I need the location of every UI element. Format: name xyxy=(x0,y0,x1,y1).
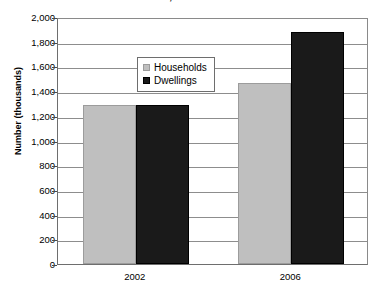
bar-chart: Ireland, 2002 and 2006 Number (thousands… xyxy=(0,0,380,285)
bar-dwellings-2002 xyxy=(136,105,189,264)
bar-households-2002 xyxy=(83,105,136,264)
y-tick-label: 600 xyxy=(0,186,55,196)
x-tick-label: 2006 xyxy=(250,271,330,282)
y-tick-label: 200 xyxy=(0,235,55,245)
y-tick-label: 800 xyxy=(0,161,55,171)
bar-households-2006 xyxy=(238,83,291,264)
x-tick-label: 2002 xyxy=(95,271,175,282)
legend-label-dwellings: Dwellings xyxy=(154,76,197,86)
y-tick-label: 1,400 xyxy=(0,87,55,97)
legend-item-dwellings: Dwellings xyxy=(143,74,207,87)
legend-swatch-dwellings-icon xyxy=(143,77,150,84)
legend: Households Dwellings xyxy=(137,57,215,92)
y-tick-label: 0 xyxy=(0,260,55,270)
y-tick-label: 2,000 xyxy=(0,13,55,23)
y-tick-label: 400 xyxy=(0,211,55,221)
plot-area: Households Dwellings xyxy=(57,18,368,265)
y-tick-mark xyxy=(52,265,57,266)
legend-label-households: Households xyxy=(154,63,207,73)
y-tick-label: 1,600 xyxy=(0,62,55,72)
bar-dwellings-2006 xyxy=(291,32,344,264)
legend-swatch-households-icon xyxy=(143,64,150,71)
y-tick-label: 1,000 xyxy=(0,137,55,147)
chart-title: Ireland, 2002 and 2006 xyxy=(0,0,380,3)
y-tick-label: 1,800 xyxy=(0,38,55,48)
legend-item-households: Households xyxy=(143,61,207,74)
y-tick-label: 1,200 xyxy=(0,112,55,122)
